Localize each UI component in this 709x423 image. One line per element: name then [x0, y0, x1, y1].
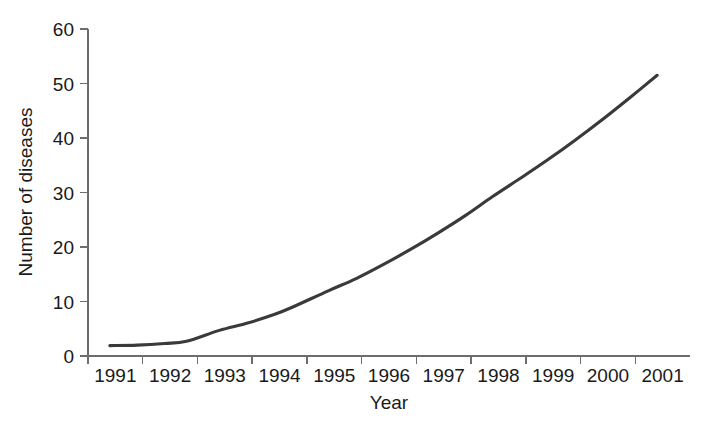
x-tick-label: 1997	[423, 365, 465, 386]
y-tick-label: 20	[53, 237, 74, 258]
x-tick-label: 2001	[641, 365, 683, 386]
x-tick-label: 1994	[258, 365, 301, 386]
y-tick-label: 10	[53, 292, 74, 313]
line-chart: 0102030405060 19911992199319941995199619…	[0, 0, 709, 423]
chart-background	[0, 0, 709, 423]
x-tick-label: 1993	[204, 365, 246, 386]
y-tick-label: 0	[63, 346, 74, 367]
y-tick-label: 30	[53, 183, 74, 204]
x-tick-label: 1995	[313, 365, 355, 386]
chart-figure: 0102030405060 19911992199319941995199619…	[0, 0, 709, 423]
y-tick-label: 40	[53, 128, 74, 149]
x-tick-label: 1991	[94, 365, 136, 386]
y-tick-label: 60	[53, 19, 74, 40]
x-axis-title: Year	[370, 392, 409, 413]
x-tick-label: 1996	[368, 365, 410, 386]
x-tick-label: 1992	[149, 365, 191, 386]
x-tick-label: 2000	[587, 365, 629, 386]
y-axis-title: Number of diseases	[15, 108, 36, 277]
x-tick-label: 1998	[477, 365, 519, 386]
y-tick-label: 50	[53, 74, 74, 95]
x-tick-label: 1999	[532, 365, 574, 386]
